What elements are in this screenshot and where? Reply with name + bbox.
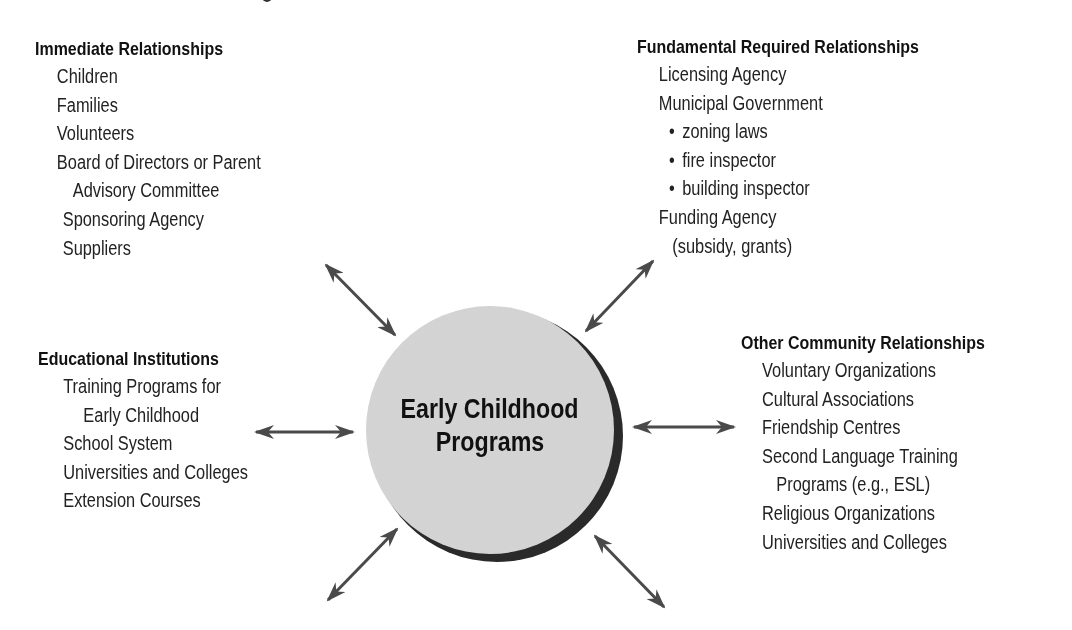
group-educational: Educational Institutions Training Progra… xyxy=(38,346,248,515)
group-immediate: Immediate Relationships Children Familie… xyxy=(35,36,261,262)
list-item: School System xyxy=(38,429,248,458)
group-heading: Educational Institutions xyxy=(38,346,248,372)
arrow-immediate xyxy=(326,265,395,335)
list-item: Religious Organizations xyxy=(741,499,985,528)
group-heading: Immediate Relationships xyxy=(35,36,261,62)
list-item: Suppliers xyxy=(35,234,261,263)
list-item: Training Programs for xyxy=(38,372,248,401)
list-item: Second Language Training xyxy=(741,442,985,471)
list-item: Advisory Committee xyxy=(35,176,261,205)
center-label-line2: Programs xyxy=(436,426,544,459)
group-heading: Other Community Relationships xyxy=(741,330,985,356)
list-item: Volunteers xyxy=(35,119,261,148)
list-item: Extension Courses xyxy=(38,486,248,515)
arrow-bottom-left xyxy=(328,529,397,600)
list-item: Early Childhood xyxy=(38,401,248,430)
list-item: Families xyxy=(35,91,261,120)
list-item: Municipal Government xyxy=(637,89,919,118)
list-item: Friendship Centres xyxy=(741,413,985,442)
list-item: Licensing Agency xyxy=(637,60,919,89)
group-heading: Fundamental Required Relationships xyxy=(637,34,919,60)
list-item: zoning laws xyxy=(637,117,919,146)
list-item: Board of Directors or Parent xyxy=(35,148,261,177)
list-item: building inspector xyxy=(637,174,919,203)
center-label-line1: Early Childhood xyxy=(401,393,579,426)
group-fundamental: Fundamental Required Relationships Licen… xyxy=(637,34,919,260)
list-item: Cultural Associations xyxy=(741,385,985,414)
list-item: fire inspector xyxy=(637,146,919,175)
list-item: Universities and Colleges xyxy=(38,458,248,487)
arrow-fundamental xyxy=(586,261,653,331)
list-item: Children xyxy=(35,62,261,91)
list-item: Programs (e.g., ESL) xyxy=(741,470,985,499)
group-community: Other Community Relationships Voluntary … xyxy=(741,330,985,556)
list-item: Sponsoring Agency xyxy=(35,205,261,234)
list-item: Voluntary Organizations xyxy=(741,356,985,385)
arrow-bottom-right xyxy=(595,536,664,607)
list-item: Universities and Colleges xyxy=(741,528,985,557)
center-label: Early Childhood Programs xyxy=(366,393,614,459)
list-item: Funding Agency xyxy=(637,203,919,232)
list-item: (subsidy, grants) xyxy=(637,232,919,261)
